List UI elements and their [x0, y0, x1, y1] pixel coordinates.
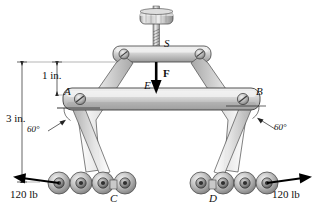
chain-contact-block-c — [110, 180, 117, 189]
point-label-e: E — [144, 80, 151, 91]
chain-roller — [114, 172, 136, 194]
toggle-clamp-diagram — [0, 0, 323, 212]
pivot-screw-upper-left — [119, 49, 129, 59]
screw-head-icon — [140, 9, 173, 25]
point-label-d: D — [209, 193, 217, 204]
load-label-right: 120 lb — [272, 189, 300, 200]
point-label-s: S — [164, 38, 170, 49]
pivot-screw-point-b — [237, 93, 248, 104]
chain-roller — [190, 172, 212, 194]
lower-link-bar — [63, 88, 260, 110]
dimension-label-1in: 1 in. — [42, 70, 62, 81]
dimension-label-3in: 3 in. — [6, 113, 26, 124]
angle-label-right: 60° — [274, 123, 287, 132]
chain-roller — [70, 172, 92, 194]
point-label-b: B — [256, 86, 263, 97]
point-label-c: C — [110, 193, 117, 204]
point-label-a: A — [64, 86, 71, 97]
load-label-left: 120 lb — [10, 189, 38, 200]
pivot-screw-upper-right — [195, 49, 205, 59]
chain-roller — [234, 172, 256, 194]
force-label-f: F — [163, 68, 170, 79]
roller-chain-right — [190, 172, 278, 194]
pivot-screw-point-a — [74, 93, 85, 104]
roller-chain-left — [48, 172, 136, 194]
angle-label-left: 60° — [27, 125, 40, 134]
chain-contact-block-d — [209, 180, 216, 189]
